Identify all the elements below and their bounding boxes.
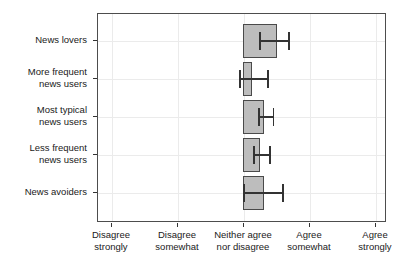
error-bar-cap-high [267, 70, 269, 88]
y-axis-tick [93, 40, 97, 41]
y-axis-label-less-frequent-news-users: Less frequent news users [29, 142, 87, 165]
y-axis-label-news-lovers: News lovers [35, 34, 87, 46]
bar-group [98, 24, 385, 58]
error-bar-cap-low [243, 184, 245, 202]
y-axis-label-more-frequent-news-users: More frequent news users [28, 66, 87, 89]
bar-group [98, 62, 385, 96]
error-bar-cap-high [288, 32, 290, 50]
error-bar-cap-low [258, 108, 260, 126]
bar-group [98, 100, 385, 134]
y-axis-tick [93, 192, 97, 193]
bar-group [98, 138, 385, 172]
bar-chart: News lovers More frequent news users Mos… [0, 0, 413, 273]
error-bar-line [260, 40, 289, 42]
y-axis-label-most-typical-news-users: Most typical news users [37, 104, 87, 127]
error-bar-line [259, 116, 274, 118]
error-bar-cap-high [273, 108, 275, 126]
y-axis-tick [93, 116, 97, 117]
x-axis-tick [375, 223, 376, 227]
plot-panel [97, 13, 386, 222]
x-axis-tick [177, 223, 178, 227]
error-bar-line [254, 154, 270, 156]
error-bar-cap-high [282, 184, 284, 202]
error-bar-cap-low [239, 70, 241, 88]
y-axis-tick [93, 78, 97, 79]
y-axis-label-news-avoiders: News avoiders [25, 186, 87, 198]
bar-group [98, 176, 385, 210]
x-axis-tick [243, 223, 244, 227]
x-axis-label-agree-strongly: Agree strongly [332, 229, 413, 252]
error-bar-line [244, 192, 283, 194]
error-bar-line [240, 78, 268, 80]
x-axis-tick [111, 223, 112, 227]
error-bar-cap-low [259, 32, 261, 50]
y-axis-tick [93, 154, 97, 155]
x-axis-tick [309, 223, 310, 227]
error-bar-cap-low [253, 146, 255, 164]
error-bar-cap-high [269, 146, 271, 164]
bars-layer [98, 14, 385, 221]
